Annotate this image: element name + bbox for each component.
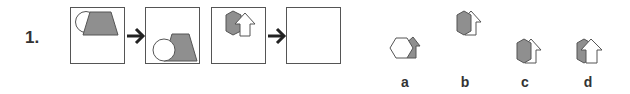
hexagon-arrow-figure [448,8,488,48]
circle-trapezoid-figure [71,8,126,65]
right-arrow-icon [267,27,287,45]
option-c-label[interactable]: c [515,74,535,90]
right-arrow-icon [126,27,146,45]
hexagon-arrow-figure [212,8,267,65]
option-b-label[interactable]: b [455,74,475,90]
option-a[interactable] [385,34,425,74]
circle-trapezoid-figure [146,8,201,65]
option-b[interactable] [448,8,488,48]
sequence-frame-3 [211,7,266,64]
sequence-frame-1 [70,7,125,64]
answer-slot[interactable] [286,7,341,64]
option-a-label[interactable]: a [395,74,415,90]
question-number: 1. [25,28,39,48]
option-d[interactable] [568,36,608,76]
option-d-label[interactable]: d [578,74,598,90]
option-c[interactable] [508,36,548,76]
sequence-frame-2 [145,7,200,64]
hexagon-arrow-figure [568,36,608,76]
hexagon-arrow-figure [508,36,548,76]
hexagon-arrow-figure [385,34,425,74]
